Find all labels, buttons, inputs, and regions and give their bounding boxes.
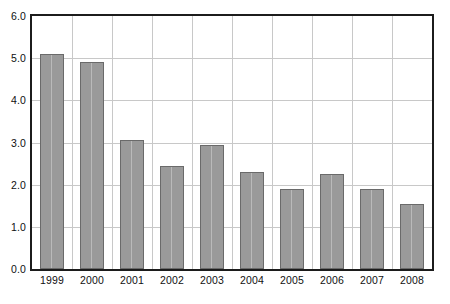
bar-highlight: [251, 173, 252, 268]
x-axis: 1999200020012002200320042005200620072008: [30, 275, 434, 295]
bar-2008: [400, 204, 424, 269]
y-axis-tick-label: 5.0: [0, 53, 26, 64]
bar-highlight: [51, 55, 52, 268]
bar-highlight: [411, 205, 412, 268]
y-axis-tick-label: 3.0: [0, 137, 26, 148]
x-axis-tick-label: 2000: [80, 275, 104, 286]
bar-2004: [240, 172, 264, 269]
bar-2003: [200, 145, 224, 269]
bar-2006: [320, 174, 344, 269]
y-axis-tick-label: 4.0: [0, 95, 26, 106]
bar-chart: 6.05.04.03.02.01.00.0 199920002001200220…: [0, 0, 450, 304]
bar-highlight: [371, 190, 372, 268]
y-axis-tick-label: 1.0: [0, 222, 26, 233]
x-axis-tick-label: 2003: [200, 275, 224, 286]
y-axis-tick-label: 0.0: [0, 264, 26, 275]
bar-highlight: [91, 63, 92, 268]
bar-2007: [360, 189, 384, 269]
y-axis: 6.05.04.03.02.01.00.0: [0, 0, 30, 304]
x-axis-tick-label: 2002: [160, 275, 184, 286]
x-axis-tick-label: 2004: [240, 275, 264, 286]
bar-2005: [280, 189, 304, 269]
x-axis-tick-label: 2006: [320, 275, 344, 286]
bar-highlight: [171, 167, 172, 268]
x-axis-tick-label: 2007: [360, 275, 384, 286]
y-axis-tick-label: 6.0: [0, 11, 26, 22]
x-axis-tick-label: 2005: [280, 275, 304, 286]
bar-highlight: [331, 175, 332, 268]
bar-1999: [40, 54, 64, 269]
bar-2002: [160, 166, 184, 269]
bar-highlight: [211, 146, 212, 268]
bar-2000: [80, 62, 104, 269]
bars-layer: [32, 16, 432, 269]
x-axis-tick-label: 2001: [120, 275, 144, 286]
y-axis-tick-label: 2.0: [0, 179, 26, 190]
bar-highlight: [291, 190, 292, 268]
x-axis-tick-label: 2008: [400, 275, 424, 286]
bar-2001: [120, 140, 144, 269]
plot-area: [30, 14, 434, 271]
x-axis-tick-label: 1999: [40, 275, 64, 286]
bar-highlight: [131, 141, 132, 268]
